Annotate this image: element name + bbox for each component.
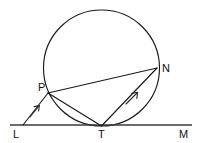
segment-l-p (23, 93, 48, 125)
arrow-mark-lp-icon (30, 106, 39, 117)
label-m: M (179, 128, 188, 140)
segment-t-n (102, 68, 158, 126)
circle-shape (44, 10, 160, 126)
geometry-figure: L M T P N (0, 0, 200, 143)
label-l: L (13, 128, 19, 140)
geometry-canvas: L M T P N (0, 0, 200, 143)
label-p: P (38, 81, 45, 93)
label-n: N (162, 62, 170, 74)
segment-p-n (48, 68, 157, 93)
segment-p-t (48, 93, 102, 126)
label-t: T (98, 128, 105, 140)
